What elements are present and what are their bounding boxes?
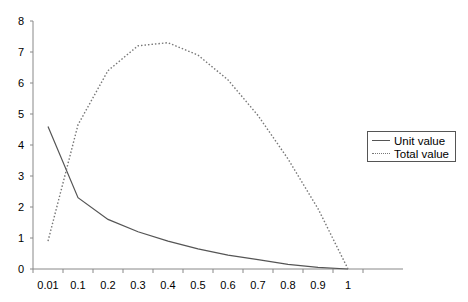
y-tick-label: 5 (18, 108, 24, 120)
y-tick-label: 4 (18, 139, 24, 151)
x-tick-label: 0.7 (250, 279, 265, 291)
y-tick-label: 2 (18, 201, 24, 213)
x-tick-label: 0.9 (310, 279, 325, 291)
y-tick-label: 3 (18, 170, 24, 182)
x-tick-label: 0.5 (190, 279, 205, 291)
unit-value-line (48, 126, 348, 269)
x-tick-label: 1 (345, 279, 351, 291)
x-tick-label: 0.3 (130, 279, 145, 291)
x-tick-label: 0.1 (70, 279, 85, 291)
x-tick-label: 0.01 (37, 279, 58, 291)
x-tick-label: 0.4 (160, 279, 175, 291)
legend-item-unit-value: Unit value (372, 134, 445, 147)
solid-line-icon (372, 140, 390, 141)
y-tick-label: 7 (18, 46, 24, 58)
y-tick-label: 0 (18, 263, 24, 275)
legend-label: Unit value (394, 135, 445, 147)
x-tick-label: 0.8 (280, 279, 295, 291)
y-tick-label: 8 (18, 15, 24, 27)
total-value-line (48, 43, 348, 269)
x-tick-label: 0.6 (220, 279, 235, 291)
series-lines (48, 43, 348, 269)
x-tick-label: 0.2 (100, 279, 115, 291)
legend: Unit value Total value (367, 131, 456, 162)
legend-label: Total value (394, 148, 449, 160)
legend-item-total-value: Total value (372, 147, 449, 160)
y-tick-label: 6 (18, 77, 24, 89)
y-tick-label: 1 (18, 232, 24, 244)
dotted-line-icon (372, 153, 390, 154)
axes: 0123456780.010.10.20.30.40.50.60.70.80.9… (18, 15, 403, 291)
